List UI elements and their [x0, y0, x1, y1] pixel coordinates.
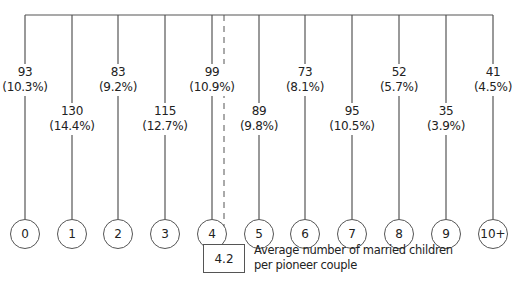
- category-label: 7: [348, 227, 356, 241]
- category-label: 2: [114, 227, 122, 241]
- category-circle: 0: [10, 219, 40, 249]
- category-circle: 1: [57, 219, 87, 249]
- node-percent: (5.7%): [380, 80, 418, 95]
- node-label: 41(4.5%): [474, 64, 512, 96]
- node-count: 89: [240, 104, 278, 119]
- category-label: 10+: [480, 227, 505, 241]
- node-percent: (9.8%): [240, 119, 278, 134]
- category-label: 5: [255, 227, 263, 241]
- average-value-box: 4.2: [203, 244, 245, 273]
- node-label: 93(10.3%): [2, 64, 47, 96]
- node-count: 99: [189, 65, 234, 80]
- category-label: 0: [21, 227, 29, 241]
- node-count: 93: [2, 65, 47, 80]
- average-label-line1: Average number of married children: [254, 243, 453, 258]
- average-value: 4.2: [214, 252, 233, 266]
- node-count: 130: [49, 104, 94, 119]
- category-circle: 10+: [478, 219, 508, 249]
- node-label: 35(3.9%): [427, 103, 465, 135]
- node-label: 130(14.4%): [49, 103, 94, 135]
- category-label: 8: [395, 227, 403, 241]
- node-percent: (8.1%): [286, 80, 324, 95]
- average-label: Average number of married children per p…: [254, 243, 453, 273]
- node-count: 35: [427, 104, 465, 119]
- category-circle: 2: [103, 219, 133, 249]
- node-label: 99(10.9%): [189, 64, 234, 96]
- node-percent: (10.9%): [189, 80, 234, 95]
- node-percent: (12.7%): [142, 119, 187, 134]
- node-label: 115(12.7%): [142, 103, 187, 135]
- node-label: 83(9.2%): [99, 64, 137, 96]
- category-label: 3: [161, 227, 169, 241]
- node-label: 73(8.1%): [286, 64, 324, 96]
- node-count: 73: [286, 65, 324, 80]
- node-percent: (4.5%): [474, 80, 512, 95]
- category-label: 4: [208, 227, 216, 241]
- node-count: 83: [99, 65, 137, 80]
- category-label: 1: [68, 227, 76, 241]
- category-label: 9: [442, 227, 450, 241]
- category-circle: 3: [150, 219, 180, 249]
- node-count: 95: [329, 104, 374, 119]
- category-label: 6: [301, 227, 309, 241]
- node-percent: (9.2%): [99, 80, 137, 95]
- node-percent: (10.3%): [2, 80, 47, 95]
- node-label: 52(5.7%): [380, 64, 418, 96]
- node-label: 95(10.5%): [329, 103, 374, 135]
- node-percent: (3.9%): [427, 119, 465, 134]
- average-label-line2: per pioneer couple: [254, 258, 453, 273]
- node-count: 41: [474, 65, 512, 80]
- node-count: 115: [142, 104, 187, 119]
- node-percent: (14.4%): [49, 119, 94, 134]
- node-label: 89(9.8%): [240, 103, 278, 135]
- node-count: 52: [380, 65, 418, 80]
- node-percent: (10.5%): [329, 119, 374, 134]
